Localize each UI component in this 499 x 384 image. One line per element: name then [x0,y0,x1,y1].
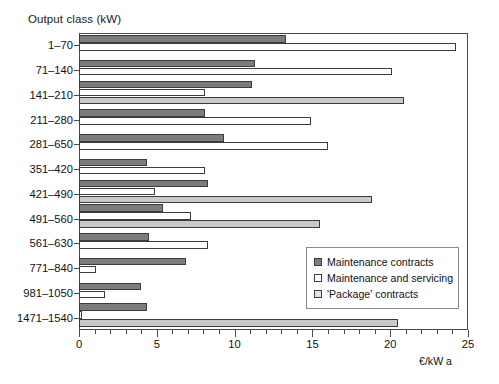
bar [79,43,456,50]
legend-label: 'Package' contracts [327,288,418,300]
chart-page: Output class (kW) 1–7071–140141–210211–2… [0,0,499,384]
x-minor-tick [421,330,422,334]
x-minor-tick [219,330,220,334]
legend-item[interactable]: 'Package' contracts [314,286,452,302]
bar [79,134,224,141]
bar [79,220,320,227]
x-minor-tick [344,330,345,334]
x-minor-tick [452,330,453,334]
legend-swatch-package-contracts [314,290,322,298]
y-axis-title: Output class (kW) [28,13,121,25]
x-minor-tick [359,330,360,334]
x-minor-tick [141,330,142,334]
x-minor-tick [203,330,204,334]
x-minor-tick [172,330,173,334]
x-minor-tick [110,330,111,334]
legend-item[interactable]: Maintenance and servicing [314,270,452,286]
category-label: 981–1050 [23,287,73,299]
x-minor-tick [406,330,407,334]
x-major-tick [468,330,469,337]
x-tick-label: 25 [462,338,474,350]
x-tick-label: 10 [228,338,240,350]
bar [79,81,252,88]
x-minor-tick [328,330,329,334]
legend-label: Maintenance contracts [327,256,434,268]
x-minor-tick [95,330,96,334]
x-major-tick [79,330,80,337]
category-label: 491–560 [29,213,73,225]
bar [79,68,392,75]
bar [79,291,105,298]
x-major-tick [312,330,313,337]
bar [79,142,328,149]
x-minor-tick [266,330,267,334]
legend-swatch-maintenance-contracts [314,258,322,266]
bar [79,303,147,310]
x-minor-tick [188,330,189,334]
x-minor-tick [126,330,127,334]
category-label: 71–140 [36,64,73,76]
category-label: 771–840 [29,262,73,274]
bar [79,60,255,67]
bar [79,196,372,203]
x-major-tick [157,330,158,337]
bar [79,117,311,124]
x-minor-tick [281,330,282,334]
x-axis-tick-labels: 0510152025 [79,338,468,354]
bar [79,89,205,96]
bar [79,283,141,290]
bar [79,159,147,166]
category-label: 421–490 [29,188,73,200]
bar [79,97,404,104]
x-tick-label: 20 [384,338,396,350]
x-minor-tick [250,330,251,334]
x-minor-tick [375,330,376,334]
bar [79,204,163,211]
chart-legend: Maintenance contracts Maintenance and se… [306,247,459,309]
x-major-tick [235,330,236,337]
category-label: 561–630 [29,237,73,249]
bar [79,180,208,187]
bar [79,258,186,265]
category-label: 351–420 [29,163,73,175]
bar [79,212,191,219]
bar [79,319,398,326]
bar [79,109,205,116]
bar [79,241,208,248]
category-label: 1471–1540 [17,312,73,324]
category-label: 281–650 [29,138,73,150]
x-tick-label: 0 [76,338,82,350]
x-minor-tick [297,330,298,334]
x-major-tick [390,330,391,337]
x-tick-label: 15 [306,338,318,350]
bar [79,266,96,273]
bar [79,167,205,174]
category-axis-labels: 1–7071–140141–210211–280281–650351–42042… [0,33,73,330]
bar [79,311,82,318]
legend-swatch-maintenance-and-servicing [314,274,322,282]
x-axis-title: €/kW a [419,355,452,367]
bar [79,35,286,42]
x-minor-tick [437,330,438,334]
category-label: 1–70 [48,39,73,51]
category-label: 141–210 [29,89,73,101]
bar [79,233,149,240]
legend-item[interactable]: Maintenance contracts [314,254,452,270]
legend-label: Maintenance and servicing [327,272,453,284]
bar [79,188,155,195]
category-label: 211–280 [30,114,73,126]
x-tick-label: 5 [154,338,160,350]
